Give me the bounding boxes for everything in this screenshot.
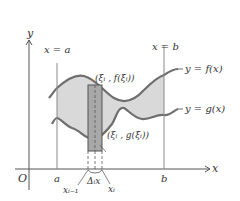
leader-xi (102, 170, 110, 184)
delta-brace (88, 170, 102, 173)
area-between-curves-diagram: y x O x = a x = b a b y = f(x) y = g(x) … (0, 0, 240, 201)
bottom-point-label: (ξᵢ , g(ξᵢ)) (107, 130, 149, 140)
x-equals-a-label: x = a (44, 44, 70, 55)
tick-a-label: a (54, 173, 60, 184)
x-i-minus-1-label: xᵢ₋₁ (63, 185, 78, 195)
g-curve-label: y = g(x) (184, 103, 225, 114)
top-point-label: (ξᵢ , f(ξᵢ)) (95, 73, 135, 83)
delta-x-label: Δᵢx (86, 176, 100, 186)
x-axis-label: x (212, 162, 219, 175)
y-axis-label: y (26, 27, 34, 40)
origin-label: O (18, 172, 27, 185)
x-i-label: xᵢ (108, 184, 115, 194)
tick-b-label: b (161, 173, 167, 184)
f-curve-label: y = f(x) (184, 63, 223, 74)
x-equals-b-label: x = b (152, 41, 179, 52)
